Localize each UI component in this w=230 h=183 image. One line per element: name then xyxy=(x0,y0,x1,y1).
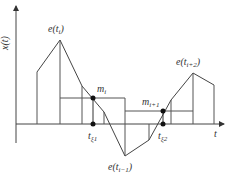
t-xi2-dot xyxy=(161,122,166,127)
label-peak-i: e(ti) xyxy=(48,24,64,36)
m-i1-dot xyxy=(161,109,166,114)
label-m-i: mi xyxy=(97,84,106,96)
label-trough: e(ti−1) xyxy=(108,162,132,174)
x-axis-label: t xyxy=(214,129,217,139)
label-t-xi1: tξ1 xyxy=(88,131,97,143)
t-xi1-dot xyxy=(91,122,96,127)
y-axis-label: x(t) xyxy=(0,36,10,50)
diagram-graphics xyxy=(0,0,230,183)
label-peak-i2: e(ti+2) xyxy=(176,57,200,69)
label-m-i1: mi+1 xyxy=(142,97,159,109)
m-i-dot xyxy=(91,96,96,101)
diagram: x(t) t e(ti) mi tξ1 mi+1 tξ2 e(ti−1) e(t… xyxy=(0,0,230,183)
label-t-xi2: tξ2 xyxy=(158,131,167,143)
